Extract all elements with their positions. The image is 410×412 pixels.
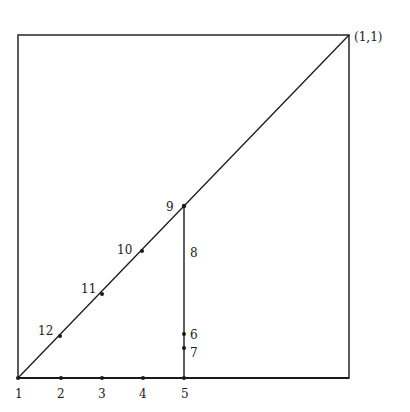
label-7: 7: [190, 346, 198, 360]
label-3: 3: [98, 387, 106, 401]
label-11: 11: [81, 282, 96, 296]
label-10: 10: [117, 243, 132, 257]
point-1: [16, 376, 20, 380]
label-9: 9: [166, 200, 174, 214]
label-12: 12: [38, 324, 53, 338]
point-12: [58, 334, 62, 338]
corner-label: (1,1): [354, 30, 382, 44]
point-6: [182, 332, 186, 336]
point-4: [141, 376, 145, 380]
point-10: [140, 249, 144, 253]
point-3: [100, 376, 104, 380]
point-11: [100, 292, 104, 296]
label-1: 1: [15, 387, 23, 401]
label-4: 4: [139, 387, 147, 401]
point-7: [182, 346, 186, 350]
point-2: [59, 376, 63, 380]
label-2: 2: [57, 387, 65, 401]
label-8: 8: [190, 246, 198, 260]
point-9: [182, 204, 186, 208]
point-5: [182, 376, 186, 380]
label-6: 6: [190, 328, 198, 342]
diagram-canvas: (1,1) 1 2 3 4 5 6 7 8 9 10 11 12: [0, 0, 410, 412]
label-5: 5: [181, 387, 189, 401]
